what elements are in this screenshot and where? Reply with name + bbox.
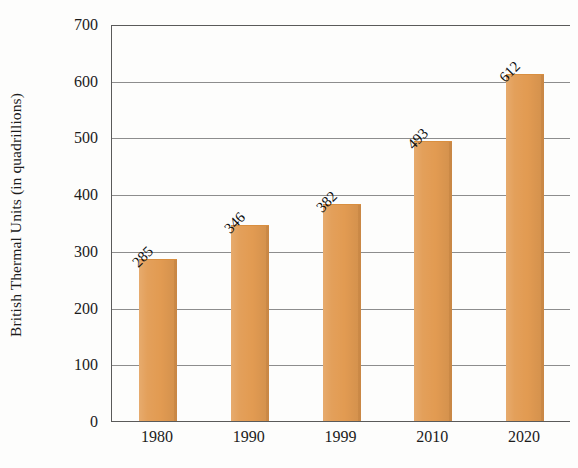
x-axis-tick: 1980 bbox=[141, 428, 173, 446]
y-axis-tick: 0 bbox=[90, 413, 98, 431]
plot-top-border bbox=[112, 25, 570, 26]
y-axis-tick: 500 bbox=[74, 129, 98, 147]
gridline bbox=[112, 138, 570, 139]
y-axis-tick: 100 bbox=[74, 356, 98, 374]
y-axis-tick: 400 bbox=[74, 186, 98, 204]
bar bbox=[323, 204, 361, 421]
bar bbox=[506, 74, 544, 421]
y-axis-title: British Thermal Units (in quadrillions) bbox=[0, 0, 32, 430]
y-axis-title-text: British Thermal Units (in quadrillions) bbox=[7, 93, 25, 337]
gridline bbox=[112, 82, 570, 83]
x-axis-tick-labels: 19801990199920102020 bbox=[111, 428, 570, 456]
y-axis-tick-labels: 0100200300400500600700 bbox=[36, 25, 106, 422]
gridline bbox=[112, 195, 570, 196]
x-axis-tick: 2020 bbox=[508, 428, 540, 446]
y-axis-tick: 700 bbox=[74, 16, 98, 34]
y-axis-tick: 200 bbox=[74, 300, 98, 318]
bar bbox=[139, 259, 177, 421]
y-axis-tick: 600 bbox=[74, 73, 98, 91]
plot-area: 285346382493612 bbox=[111, 25, 570, 422]
x-axis-tick: 1990 bbox=[233, 428, 265, 446]
x-axis-tick: 2010 bbox=[416, 428, 448, 446]
bar bbox=[231, 225, 269, 421]
y-axis-tick: 300 bbox=[74, 243, 98, 261]
bar bbox=[414, 141, 452, 421]
x-axis-tick: 1999 bbox=[325, 428, 357, 446]
bar-chart: British Thermal Units (in quadrillions) … bbox=[0, 0, 578, 468]
